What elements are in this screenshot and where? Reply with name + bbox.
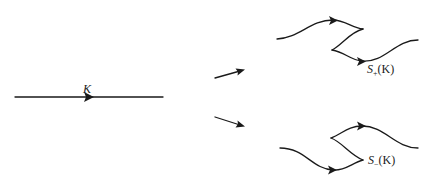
upper-result-diagram: S+(K) <box>277 16 418 78</box>
split-arrow-lower <box>215 117 245 128</box>
lower-result-diagram: S−(K) <box>280 122 418 175</box>
split-arrow-upper <box>215 69 245 79</box>
input-label: K <box>82 82 92 96</box>
arrowhead-icon <box>357 57 366 66</box>
input-line: K <box>15 82 163 102</box>
diagram-canvas: K S+(K) S−(K) <box>0 0 433 180</box>
lower-result-label: S−(K) <box>368 153 395 169</box>
upper-result-label: S+(K) <box>367 62 394 78</box>
